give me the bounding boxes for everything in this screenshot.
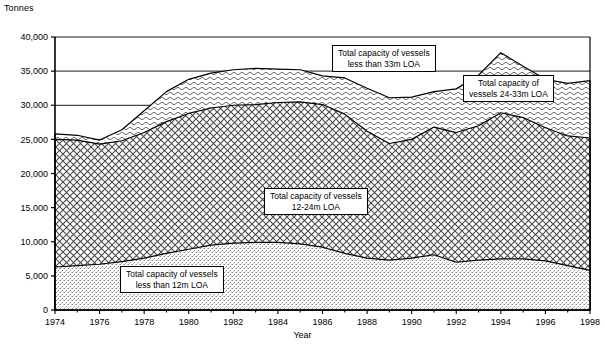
chart-container: Tonnes xyxy=(0,0,605,347)
svg-text:1978: 1978 xyxy=(134,317,154,327)
svg-text:1986: 1986 xyxy=(312,317,332,327)
svg-text:20,000: 20,000 xyxy=(20,169,48,179)
svg-text:25,000: 25,000 xyxy=(20,135,48,145)
svg-text:1974: 1974 xyxy=(45,317,65,327)
x-axis-ticks: 1974197619781980198219841986198819901992… xyxy=(45,310,600,327)
svg-text:10,000: 10,000 xyxy=(20,237,48,247)
svg-text:1992: 1992 xyxy=(446,317,466,327)
svg-text:30,000: 30,000 xyxy=(20,100,48,110)
svg-text:1998: 1998 xyxy=(580,317,600,327)
svg-text:1976: 1976 xyxy=(90,317,110,327)
y-axis-ticks: 05,00010,00015,00020,00025,00030,00035,0… xyxy=(20,32,55,315)
svg-text:40,000: 40,000 xyxy=(20,32,48,42)
svg-text:1980: 1980 xyxy=(179,317,199,327)
svg-text:1984: 1984 xyxy=(268,317,288,327)
chart-plot-svg: 05,00010,00015,00020,00025,00030,00035,0… xyxy=(0,0,605,347)
svg-text:1996: 1996 xyxy=(535,317,555,327)
svg-text:1994: 1994 xyxy=(491,317,511,327)
svg-text:1988: 1988 xyxy=(357,317,377,327)
svg-text:1990: 1990 xyxy=(402,317,422,327)
callout-24-33m: Total capacity of vessels 24-33m LOA xyxy=(463,75,554,102)
callout-less-than-12m: Total capacity of vessels less than 12m … xyxy=(120,266,224,293)
svg-text:1982: 1982 xyxy=(223,317,243,327)
svg-text:15,000: 15,000 xyxy=(20,203,48,213)
svg-text:35,000: 35,000 xyxy=(20,66,48,76)
svg-text:5,000: 5,000 xyxy=(25,271,48,281)
callout-12-24m: Total capacity of vessels 12-24m LOA xyxy=(264,188,368,215)
svg-text:0: 0 xyxy=(43,305,48,315)
callout-less-than-33m: Total capacity of vessels less than 33m … xyxy=(332,45,436,72)
x-axis-title: Year xyxy=(0,330,605,341)
